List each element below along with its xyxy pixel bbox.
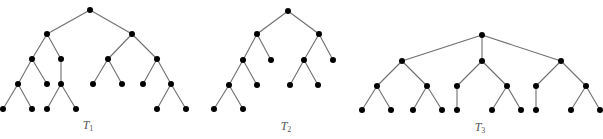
- tree-node: [44, 31, 50, 37]
- tree-node: [316, 31, 322, 37]
- tree-edge: [304, 60, 318, 85]
- tree-edge: [536, 61, 561, 86]
- tree-node: [119, 81, 125, 87]
- tree-edge: [229, 85, 243, 109]
- tree-node: [424, 83, 430, 89]
- tree-node: [439, 107, 445, 113]
- tree-label-t2-main: T: [281, 119, 288, 133]
- tree-edge: [290, 60, 304, 85]
- tree-node: [129, 31, 135, 37]
- tree-node: [388, 107, 394, 113]
- tree-node: [410, 107, 416, 113]
- tree-edge: [507, 86, 521, 110]
- tree-node: [533, 107, 539, 113]
- tree-edge: [402, 61, 427, 86]
- tree-node: [301, 57, 307, 63]
- tree-node: [518, 107, 524, 113]
- tree-node: [330, 57, 336, 63]
- tree-node: [268, 57, 274, 63]
- tree-label-t3-sub: 3: [481, 126, 485, 135]
- tree-node: [454, 107, 460, 113]
- tree-node: [73, 106, 79, 112]
- tree-node: [489, 107, 495, 113]
- tree-edge: [157, 59, 171, 84]
- tree-node: [58, 56, 64, 62]
- tree-edge: [413, 86, 427, 110]
- tree-node: [315, 82, 321, 88]
- tree-node: [58, 81, 64, 87]
- tree-edge: [18, 84, 32, 109]
- tree-node: [154, 56, 160, 62]
- tree-t2: [211, 8, 336, 112]
- tree-edge: [3, 84, 18, 109]
- tree-edge: [288, 11, 319, 34]
- tree-label-t3: T3: [475, 120, 486, 135]
- tree-node: [254, 82, 260, 88]
- tree-edge: [561, 61, 586, 86]
- tree-node: [479, 32, 485, 38]
- tree-edge: [214, 85, 229, 109]
- tree-node: [226, 82, 232, 88]
- tree-edge: [457, 61, 482, 86]
- tree-node: [568, 107, 574, 113]
- tree-node: [90, 81, 96, 87]
- tree-node: [29, 56, 35, 62]
- tree-t3: [359, 32, 603, 113]
- tree-node: [154, 106, 160, 112]
- tree-node: [558, 58, 564, 64]
- tree-edge: [319, 34, 333, 60]
- tree-label-t3-main: T: [475, 120, 482, 134]
- tree-node: [240, 106, 246, 112]
- tree-node: [15, 81, 21, 87]
- tree-edge: [229, 60, 243, 85]
- tree-figure: T1 T2 T3: [0, 0, 603, 139]
- tree-node: [29, 106, 35, 112]
- tree-edge: [47, 10, 90, 34]
- tree-label-t1-main: T: [83, 118, 90, 132]
- tree-node: [0, 106, 6, 112]
- tree-label-t2: T2: [281, 119, 292, 134]
- tree-edge: [171, 84, 186, 109]
- tree-edge: [47, 34, 61, 59]
- tree-edge: [427, 86, 442, 110]
- tree-node: [254, 31, 260, 37]
- tree-edge: [108, 34, 132, 59]
- tree-node: [44, 81, 50, 87]
- tree-edge: [61, 84, 76, 109]
- tree-edge: [362, 86, 377, 110]
- tree-node: [533, 83, 539, 89]
- tree-edge: [586, 86, 600, 110]
- tree-edge: [47, 84, 61, 109]
- tree-edge: [90, 10, 132, 34]
- tree-edge: [32, 34, 47, 59]
- tree-node: [287, 82, 293, 88]
- tree-edge: [143, 59, 157, 84]
- tree-edge: [243, 60, 257, 85]
- tree-node: [44, 106, 50, 112]
- tree-edge: [377, 61, 402, 86]
- tree-edge: [257, 11, 288, 34]
- tree-node: [374, 83, 380, 89]
- tree-edge: [482, 35, 561, 61]
- tree-label-t2-sub: 2: [287, 125, 291, 134]
- tree-node: [583, 83, 589, 89]
- tree-edge: [377, 86, 391, 110]
- tree-node: [168, 81, 174, 87]
- tree-node: [399, 58, 405, 64]
- tree-node: [87, 7, 93, 13]
- tree-edge: [32, 59, 47, 84]
- tree-node: [211, 106, 217, 112]
- tree-edge: [492, 86, 507, 110]
- tree-edge: [93, 59, 108, 84]
- tree-edge: [304, 34, 319, 60]
- tree-edge: [402, 35, 482, 61]
- tree-edge: [571, 86, 586, 110]
- tree-node: [479, 58, 485, 64]
- tree-node: [183, 106, 189, 112]
- tree-node: [285, 8, 291, 14]
- tree-t1: [0, 7, 189, 112]
- tree-node: [359, 107, 365, 113]
- tree-node: [597, 107, 603, 113]
- tree-label-t1-sub: 1: [89, 124, 93, 133]
- tree-edge: [157, 84, 171, 109]
